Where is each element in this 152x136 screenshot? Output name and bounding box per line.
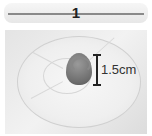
measurement-bar — [96, 55, 98, 85]
step-number: 1 — [70, 4, 82, 21]
dough-swirl-detail — [71, 57, 91, 73]
step-header: 1 — [4, 3, 148, 23]
instruction-photo: 1.5cm — [5, 30, 147, 134]
measurement-label: 1.5cm — [101, 62, 136, 77]
measure-cap-bottom — [93, 84, 101, 86]
